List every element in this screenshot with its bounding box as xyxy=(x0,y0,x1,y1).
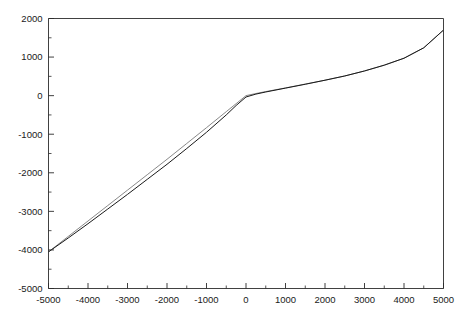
y-tick-label: -1000 xyxy=(18,129,42,140)
y-tick-label: 2000 xyxy=(21,13,42,24)
y-tick-label: -5000 xyxy=(18,283,42,294)
y-tick-label: -4000 xyxy=(18,244,42,255)
x-tick-label: 2000 xyxy=(314,294,335,305)
x-tick-label: -1000 xyxy=(194,294,218,305)
x-tick-label: 3000 xyxy=(354,294,375,305)
chart-figure: -5000-4000-3000-2000-1000010002000300040… xyxy=(0,0,464,318)
x-tick-label: -2000 xyxy=(155,294,179,305)
x-tick-label: 4000 xyxy=(393,294,414,305)
y-tick-label: 1000 xyxy=(21,51,42,62)
y-tick-label: -3000 xyxy=(18,206,42,217)
x-tick-label: -4000 xyxy=(76,294,100,305)
plot-canvas: -5000-4000-3000-2000-1000010002000300040… xyxy=(0,0,464,318)
x-tick-label: 0 xyxy=(243,294,248,305)
y-tick-label: -2000 xyxy=(18,167,42,178)
x-tick-label: 1000 xyxy=(275,294,296,305)
x-tick-label: 5000 xyxy=(433,294,454,305)
x-tick-label: -3000 xyxy=(115,294,139,305)
figure-background xyxy=(0,0,464,318)
y-tick-label: 0 xyxy=(37,90,42,101)
x-tick-label: -5000 xyxy=(36,294,60,305)
